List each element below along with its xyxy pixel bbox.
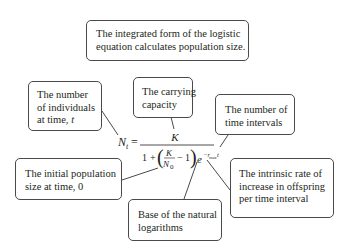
equation: N t = K 1 + ( K N 0 − 1 ) e −r max t [117, 131, 219, 171]
callout-line: The carrying [142, 86, 192, 99]
callout-line: The number of [225, 104, 294, 117]
title-callout: The integrated form of the logistic equa… [86, 20, 249, 61]
eq-rparen: ) [190, 146, 197, 169]
callout-line: at time, t [37, 114, 101, 127]
connector-k [171, 117, 174, 129]
callout-line: of individuals [37, 102, 101, 115]
connector-r [207, 160, 230, 190]
callout-line: The intrinsic rate of [239, 168, 333, 181]
callout-intrinsic-rate: The intrinsic rate of increase in offspr… [230, 158, 334, 218]
connector-n0 [122, 168, 158, 180]
eq-exp-sub: max [209, 155, 217, 160]
title-line-2: equation calculates population size. [96, 41, 248, 54]
callout-line: time intervals [225, 117, 294, 130]
eq-lhs-sub: t [126, 142, 129, 151]
eq-plus: + [150, 152, 156, 163]
eq-minus: − [177, 152, 183, 163]
eq-inner-den: N [162, 159, 170, 169]
eq-exp-t: t [217, 151, 219, 158]
callout-initial-population: The initial population size at time, 0 [15, 158, 122, 200]
eq-inner-num: K [165, 148, 173, 158]
connector-nt [102, 111, 118, 135]
eq-inner-den-sub: 0 [170, 163, 174, 171]
title-line-1: The integrated form of the logistic [96, 28, 248, 41]
eq-equals: = [131, 135, 138, 149]
callout-natural-log-base: Base of the natural logarithms [128, 199, 222, 241]
eq-exp-base: e [197, 153, 202, 165]
callout-line: The initial population [25, 168, 121, 181]
callout-time-intervals: The number of time intervals [215, 94, 295, 135]
eq-numerator: K [170, 131, 179, 143]
connector-t [220, 135, 228, 147]
callout-line: Base of the natural [138, 209, 221, 222]
callout-line: per time interval [239, 193, 333, 206]
callout-population-at-time-t: The number of individuals at time, t [28, 81, 102, 131]
callout-line: increase in offspring [239, 181, 333, 194]
callout-line: size at time, 0 [25, 181, 121, 194]
callout-line: logarithms [138, 222, 221, 235]
callout-line: capacity [142, 99, 192, 112]
eq-one: 1 [142, 152, 147, 163]
callout-line: The number [37, 89, 101, 102]
callout-carrying-capacity: The carrying capacity [133, 77, 193, 118]
